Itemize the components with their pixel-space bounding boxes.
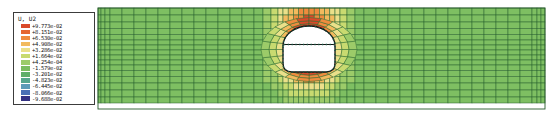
abaqus-contour-viewport: U, U2 +9.773e-02+8.151e-02+6.530e-02+4.9… <box>0 0 549 113</box>
tunnel-opening <box>283 26 335 72</box>
mesh-contour-plot <box>0 0 549 113</box>
